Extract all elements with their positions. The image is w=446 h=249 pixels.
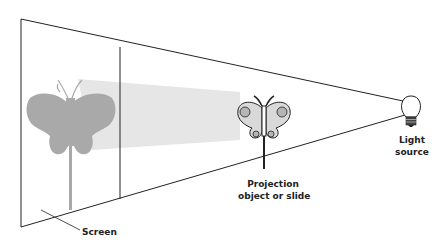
screen-label-text: Screen (82, 227, 117, 237)
projection-label-line2: object or slide (238, 190, 308, 202)
projection-label-line1: Projection (238, 178, 308, 190)
projection-object-label: Projection object or slide (238, 178, 308, 202)
light-bulb-icon (402, 96, 421, 127)
light-label-line2: source (394, 146, 430, 158)
light-source-label: Light source (394, 134, 430, 158)
light-label-line1: Light (394, 134, 430, 146)
screen-leader-line (41, 210, 80, 230)
projection-diagram (0, 0, 446, 249)
frustum-top-line (21, 19, 403, 101)
projection-object (238, 96, 291, 169)
screen-label: Screen (82, 226, 117, 238)
